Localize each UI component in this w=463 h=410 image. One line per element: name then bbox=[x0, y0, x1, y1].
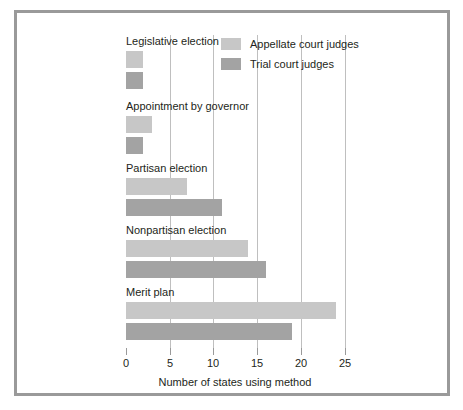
tick-label-5: 5 bbox=[155, 357, 185, 370]
chart-frame: Legislative election Appointment by gove… bbox=[14, 10, 450, 396]
plot-area: Legislative election Appointment by gove… bbox=[17, 13, 453, 399]
tick-mark-5 bbox=[170, 348, 171, 355]
bar-appellate-partisan-election bbox=[126, 178, 187, 195]
category-label-nonpartisan-election: Nonpartisan election bbox=[126, 224, 226, 237]
legend-item-trial-court-judges: Trial court judges bbox=[221, 55, 431, 73]
tick-mark-15 bbox=[257, 348, 258, 355]
tick-label-20: 20 bbox=[286, 357, 316, 370]
tick-mark-0 bbox=[126, 348, 127, 355]
legend-swatch-icon-trial bbox=[221, 58, 241, 70]
category-label-legislative-election: Legislative election bbox=[126, 35, 219, 48]
tick-label-0: 0 bbox=[111, 357, 141, 370]
chart-legend: Appellate court judges Trial court judge… bbox=[221, 35, 431, 75]
tick-label-10: 10 bbox=[198, 357, 228, 370]
bar-appellate-nonpartisan-election bbox=[126, 240, 248, 257]
tick-mark-20 bbox=[301, 348, 302, 355]
tick-label-25: 25 bbox=[330, 357, 360, 370]
x-axis-label: Number of states using method bbox=[17, 376, 453, 389]
bar-trial-appointment-by-governor bbox=[126, 137, 143, 154]
bar-trial-nonpartisan-election bbox=[126, 261, 266, 278]
tick-mark-25 bbox=[345, 348, 346, 355]
tick-mark-10 bbox=[213, 348, 214, 355]
bar-trial-merit-plan bbox=[126, 323, 292, 340]
legend-label-appellate: Appellate court judges bbox=[250, 38, 359, 51]
bar-trial-partisan-election bbox=[126, 199, 222, 216]
bar-appellate-appointment-by-governor bbox=[126, 116, 152, 133]
legend-item-appellate-court-judges: Appellate court judges bbox=[221, 35, 431, 53]
tick-label-15: 15 bbox=[242, 357, 272, 370]
legend-label-trial: Trial court judges bbox=[250, 58, 334, 71]
category-label-appointment-by-governor: Appointment by governor bbox=[126, 100, 249, 113]
bar-trial-legislative-election bbox=[126, 72, 143, 89]
category-label-merit-plan: Merit plan bbox=[126, 286, 174, 299]
legend-swatch-icon-appellate bbox=[221, 38, 241, 50]
gridline-25 bbox=[345, 35, 346, 348]
category-label-partisan-election: Partisan election bbox=[126, 162, 207, 175]
bar-appellate-legislative-election bbox=[126, 51, 143, 68]
bar-appellate-merit-plan bbox=[126, 302, 336, 319]
